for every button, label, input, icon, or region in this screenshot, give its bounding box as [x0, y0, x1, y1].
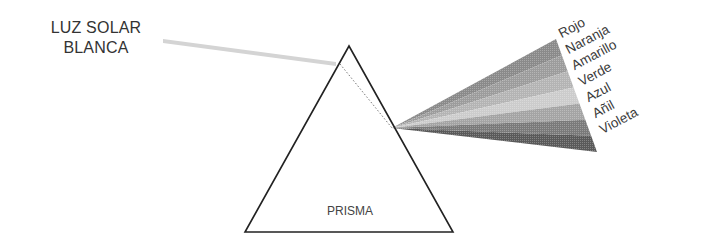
white-light-beam — [163, 39, 336, 66]
prism-label: PRISMA — [300, 204, 400, 218]
prism-diagram: LUZ SOLAR BLANCA PRISMA Rojo Naranja Ama… — [0, 0, 706, 248]
white-light-label: LUZ SOLAR BLANCA — [36, 18, 156, 58]
spectrum-texture — [392, 39, 597, 152]
white-light-label-line1: LUZ SOLAR — [36, 18, 156, 38]
refraction-path — [340, 64, 392, 128]
white-light-label-line2: BLANCA — [36, 38, 156, 58]
spectrum-fan — [392, 39, 597, 152]
